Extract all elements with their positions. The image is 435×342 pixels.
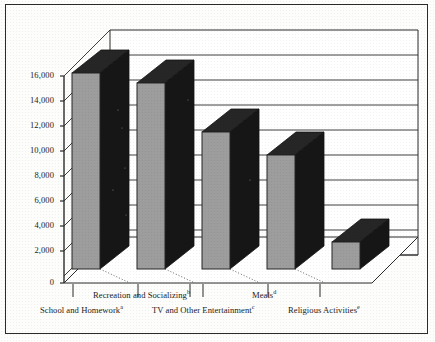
y-tick-label-12000: 12,000 [6,120,54,130]
category-label-recreation-and-socializing: Recreation and Socializingb [93,288,190,300]
footnote-marker-d: d [273,288,276,295]
bar-school-and-homework [72,50,129,269]
y-tick-label-2000: 2,000 [6,245,54,255]
footnote-marker-c: c [252,303,255,310]
bar-meals [267,132,324,269]
y-tick-label-6000: 6,000 [6,195,54,205]
footnote-marker-e: e [357,303,360,310]
y-tick-label-10000: 10,000 [6,145,54,155]
category-text-0: School and Homework [40,305,120,315]
y-tick-label-8000: 8,000 [6,170,54,180]
y-tick-label-0: 0 [6,277,54,287]
category-label-religious-activities: Religious Activitiese [288,303,360,315]
footnote-marker-b: b [187,288,190,295]
chart-canvas [0,0,435,342]
category-label-meals: Mealsd [252,288,276,300]
category-text-1: Recreation and Socializing [93,290,187,300]
bar-recreation-and-socializing [137,60,194,269]
footnote-marker-a: a [120,303,123,310]
bar-tv-and-other-entertainment [202,109,259,269]
category-label-tv-and-other-entertainment: TV and Other Entertainmentc [152,303,255,315]
y-tick-label-4000: 4,000 [6,220,54,230]
y-tick-label-16000: 16,000 [6,70,54,80]
category-text-4: Religious Activities [288,305,357,315]
category-text-3: Meals [252,290,273,300]
chart-page: 16,000 14,000 12,000 10,000 8,000 6,000 … [0,0,435,342]
category-text-2: TV and Other Entertainment [152,305,252,315]
category-label-school-and-homework: School and Homeworka [40,303,123,315]
y-tick-label-14000: 14,000 [6,95,54,105]
